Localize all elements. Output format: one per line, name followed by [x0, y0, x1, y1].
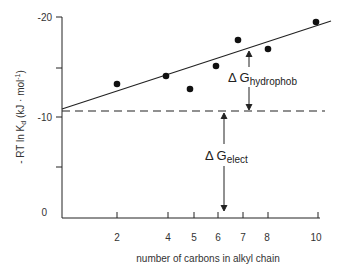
- data-point: [187, 86, 194, 93]
- x-tick-label: 10: [310, 232, 322, 243]
- x-axis-title: number of carbons in alkyl chain: [136, 253, 279, 264]
- data-point: [114, 81, 121, 88]
- y-tick-label: -20: [38, 12, 53, 23]
- dg-elect-label: Δ Gelect: [205, 148, 248, 165]
- fit-line: [62, 21, 331, 109]
- data-point: [213, 63, 220, 70]
- data-point: [235, 37, 242, 44]
- y-axis-title: - RT ln Kd (kJ · mol-1): [14, 70, 27, 164]
- x-tick-label: 4: [165, 232, 171, 243]
- data-point: [163, 73, 170, 80]
- x-tick-label: 7: [240, 232, 246, 243]
- chart: -20 -10 0 - RT ln Kd (kJ · mol-1) 2 4 5 …: [0, 0, 343, 270]
- y-tick-label: -10: [38, 112, 53, 123]
- x-ticks: [117, 212, 318, 218]
- x-tick-label: 5: [191, 232, 197, 243]
- data-point: [313, 19, 320, 26]
- data-point: [265, 46, 272, 53]
- x-tick-label: 8: [264, 232, 270, 243]
- x-tick-label: 2: [114, 232, 120, 243]
- dg-hydrophob-label: Δ Ghydrophob: [228, 70, 297, 87]
- y-tick-label: 0: [41, 207, 47, 218]
- x-tick-label: 6: [215, 232, 221, 243]
